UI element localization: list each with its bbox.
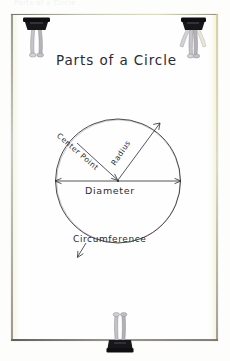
clip-arm-right-foot (37, 53, 44, 57)
label-diameter: Diameter (85, 185, 135, 196)
circumference-leader (78, 243, 87, 258)
clip-body-highlight (30, 22, 43, 24)
clip-arm-right-foot (193, 54, 200, 58)
whiteboard-scene: Parts of a Circle (0, 0, 230, 361)
clip-body (181, 18, 206, 31)
binder-clip-bottom[interactable] (103, 310, 139, 354)
clip-body-bottom-bar (107, 348, 134, 353)
clip-body-highlight (114, 342, 126, 344)
clip-arm-left-foot (29, 53, 36, 57)
clip-arm-left (31, 26, 35, 54)
clip-body-top-bar (181, 18, 206, 23)
clip-body (23, 18, 50, 31)
binder-clip-top-left[interactable] (20, 16, 56, 60)
clip-arm-left (189, 28, 194, 55)
clip-arm-right (122, 315, 126, 344)
label-circumference: Circumference (73, 234, 146, 244)
clip-body (107, 340, 134, 353)
clip-arm-left-foot (113, 313, 119, 317)
clip-body-top-bar (23, 18, 50, 23)
clip-arms (113, 313, 127, 345)
clip-body-highlight (187, 22, 199, 24)
clip-arm-right (193, 28, 198, 55)
center-point-dot (117, 180, 119, 182)
clip-arm-left (114, 315, 118, 344)
clip-arms (29, 26, 43, 57)
binder-clip-top-right[interactable] (176, 16, 212, 60)
diagram-title: Parts of a Circle (56, 52, 177, 68)
clip-arm-right-foot (121, 313, 127, 317)
clip-arm-right (38, 26, 42, 54)
